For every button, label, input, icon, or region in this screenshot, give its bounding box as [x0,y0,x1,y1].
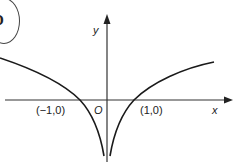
graph-canvas [0,0,233,162]
y-axis-label: y [93,25,99,36]
y-axis-arrow-icon [104,14,111,24]
x-axis-arrow-icon [224,97,233,104]
point-left-label: (−1,0) [36,105,65,116]
x-axis-label: x [212,105,218,116]
point-right-label: (1,0) [140,105,163,116]
origin-label: O [94,105,103,116]
figure-badge-label: D [0,12,4,29]
